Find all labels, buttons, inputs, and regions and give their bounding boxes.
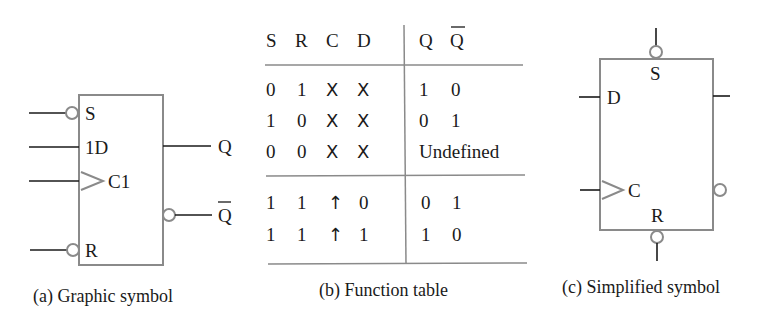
output-label-qbar: Q: [218, 205, 232, 226]
inversion-bubble-icon: [67, 244, 79, 256]
table-row: 0 1 X X 1 0: [266, 79, 461, 100]
svg-text:0: 0: [266, 79, 276, 100]
inversion-bubble-icon: [163, 209, 175, 221]
svg-text:↑: ↑: [328, 192, 343, 213]
caption-a: (a) Graphic symbol: [33, 286, 173, 307]
diagram-canvas: S 1D C1 R Q Q (a) Graphic symbol S R C D…: [0, 0, 778, 319]
table-row: 1 1 ↑ 1 1 0: [266, 224, 462, 245]
svg-text:0: 0: [421, 192, 431, 213]
svg-text:0: 0: [451, 79, 461, 100]
function-table: S R C D Q Q 0 1 X X 1 0 1 0 X X 0 1 0 0: [265, 25, 527, 301]
inversion-bubble-icon: [651, 231, 663, 243]
svg-text:1: 1: [451, 110, 461, 131]
table-row: 1 0 X X 0 1: [266, 110, 461, 131]
svg-text:1: 1: [419, 79, 429, 100]
header-c: C: [326, 30, 339, 51]
input-label-r: R: [85, 240, 98, 261]
clock-triangle-icon: [602, 181, 623, 199]
svg-text:1: 1: [266, 192, 276, 213]
label-d: D: [607, 87, 621, 108]
svg-text:0: 0: [359, 192, 369, 213]
header-q: Q: [419, 30, 433, 51]
svg-text:1: 1: [421, 224, 431, 245]
graphic-symbol: S 1D C1 R Q Q (a) Graphic symbol: [29, 95, 232, 307]
inversion-bubble-icon: [650, 46, 662, 58]
svg-text:X: X: [326, 110, 338, 131]
label-r: R: [651, 205, 664, 226]
svg-text:↑: ↑: [328, 224, 343, 245]
input-label-c1: C1: [108, 171, 130, 192]
svg-text:0: 0: [266, 141, 276, 162]
label-s: S: [650, 63, 661, 84]
caption-c: (c) Simplified symbol: [562, 277, 720, 298]
svg-text:0: 0: [297, 110, 307, 131]
svg-text:X: X: [357, 110, 369, 131]
svg-text:1: 1: [266, 110, 276, 131]
svg-text:X: X: [326, 79, 338, 100]
svg-text:1: 1: [297, 224, 307, 245]
svg-text:1: 1: [297, 192, 307, 213]
table-row: 0 0 X X Undefined: [266, 141, 500, 162]
svg-text:X: X: [357, 79, 369, 100]
svg-text:0: 0: [452, 224, 462, 245]
svg-text:X: X: [326, 141, 338, 162]
input-label-1d: 1D: [85, 137, 108, 158]
svg-text:1: 1: [452, 192, 462, 213]
clock-triangle-icon: [81, 172, 103, 190]
svg-text:0: 0: [297, 141, 307, 162]
divider: [266, 175, 525, 176]
output-label-q: Q: [218, 136, 232, 157]
divider: [404, 25, 406, 264]
svg-text:1: 1: [297, 79, 307, 100]
inversion-bubble-icon: [714, 184, 726, 196]
svg-text:X: X: [357, 141, 369, 162]
label-c: C: [628, 180, 641, 201]
svg-text:0: 0: [419, 110, 429, 131]
inversion-bubble-icon: [66, 107, 78, 119]
header-r: R: [295, 30, 308, 51]
header-d: D: [357, 30, 371, 51]
simplified-symbol: S D C R (c) Simplified symbol: [562, 28, 730, 298]
svg-text:1: 1: [266, 224, 276, 245]
divider: [268, 263, 527, 264]
input-label-s: S: [85, 103, 96, 124]
svg-text:1: 1: [359, 224, 369, 245]
caption-b: (b) Function table: [319, 280, 448, 301]
header-s: S: [266, 30, 277, 51]
svg-text:Undefined: Undefined: [419, 141, 500, 162]
header-qbar: Q: [450, 30, 464, 51]
table-row: 1 1 ↑ 0 0 1: [266, 192, 462, 213]
